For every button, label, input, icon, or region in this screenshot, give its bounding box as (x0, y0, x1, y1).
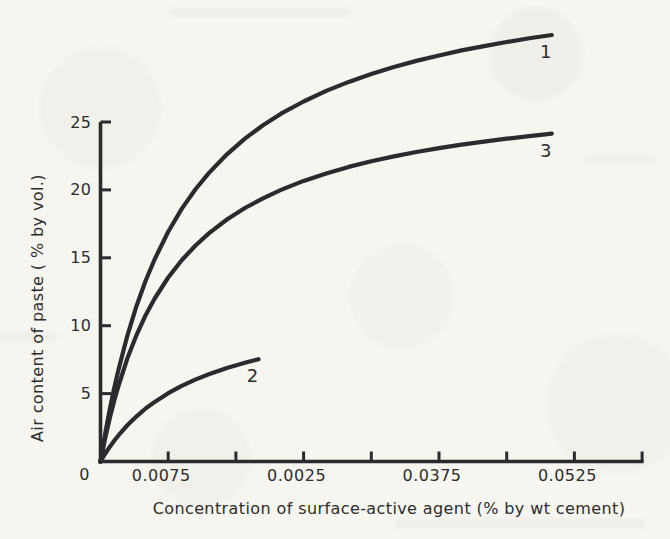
y-tick-label: 20 (70, 180, 91, 199)
x-axis-title: Concentration of surface-active agent (%… (153, 499, 626, 518)
air-content-line-chart: 5101520250.00750.00250.03750.05250132 (0, 0, 670, 539)
y-tick-label: 10 (70, 316, 91, 335)
curve-1 (101, 35, 552, 462)
y-tick-label: 5 (81, 384, 92, 403)
origin-label: 0 (79, 465, 90, 484)
x-tick-label: 0.0525 (538, 466, 597, 485)
scanned-book-page: 5101520250.00750.00250.03750.05250132 Ai… (0, 0, 670, 539)
curve-label-2: 2 (247, 365, 258, 386)
curve-label-3: 3 (540, 140, 551, 161)
y-tick-label: 15 (70, 248, 91, 267)
x-tick-label: 0.0075 (132, 466, 191, 485)
curve-3 (101, 134, 552, 462)
y-tick-label: 25 (70, 113, 91, 132)
curve-label-1: 1 (540, 41, 551, 62)
x-tick-label: 0.0375 (403, 466, 462, 485)
y-axis-title: Air content of paste ( % by vol.) (28, 174, 47, 442)
x-tick-label: 0.0025 (267, 466, 326, 485)
